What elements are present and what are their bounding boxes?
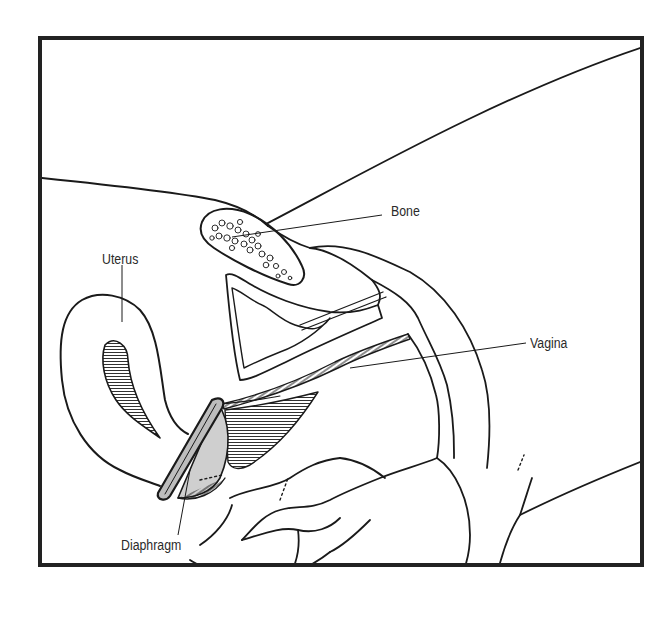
dotted-hints (178, 455, 524, 578)
bladder-inner (232, 288, 330, 368)
bone-outline (201, 209, 305, 285)
pelvic-tissue-inner (372, 280, 454, 458)
anatomy-diagram (0, 0, 672, 621)
bowel-fold-4 (200, 505, 232, 545)
bowel-upper (242, 458, 437, 540)
bowel-lower (437, 458, 470, 590)
bone-texture (210, 219, 292, 279)
bone-leader (232, 215, 382, 237)
label-vagina: Vagina (530, 336, 567, 350)
label-diaphragm: Diaphragm (121, 538, 181, 552)
uterine-cavity (103, 341, 160, 438)
pelvic-tissue-outer (310, 246, 489, 468)
bowel-fold-2 (242, 518, 340, 540)
label-uterus: Uterus (102, 252, 138, 266)
vagina-upper-wall (222, 334, 410, 409)
pelvic-tissue (268, 226, 380, 305)
body-outline (42, 178, 268, 226)
label-bone: Bone (391, 204, 420, 218)
skin-line-upper (266, 48, 640, 224)
